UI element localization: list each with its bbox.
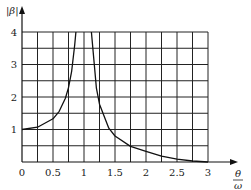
x-tick-label: 1	[81, 167, 87, 178]
y-axis-arrow-icon	[19, 6, 25, 14]
y-tick-label: 1	[11, 124, 17, 135]
axes	[19, 6, 238, 165]
y-tick-label: 2	[11, 92, 17, 103]
x-tick-label: 0	[19, 167, 25, 178]
chart: 00.511.522.531234 |β| θ ω	[0, 0, 251, 190]
x-tick-label: 3	[205, 167, 211, 178]
grid	[22, 32, 208, 162]
y-axis-label: |β|	[6, 5, 19, 17]
tick-labels: 00.511.522.531234	[11, 27, 212, 179]
y-tick-label: 4	[11, 27, 17, 38]
x-tick-label: 0.5	[45, 167, 61, 178]
x-axis-label-denominator: ω	[234, 180, 242, 190]
x-tick-label: 2.5	[169, 167, 185, 178]
y-tick-label: 3	[11, 59, 17, 70]
x-axis-arrow-icon	[230, 159, 238, 165]
x-tick-label: 1.5	[107, 167, 123, 178]
x-tick-label: 2	[143, 167, 149, 178]
x-axis-label-numerator: θ	[235, 168, 241, 179]
